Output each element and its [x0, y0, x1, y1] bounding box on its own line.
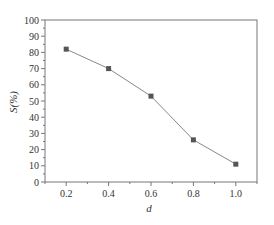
- y-tick-label: 30: [29, 128, 39, 139]
- series-line: [66, 49, 236, 164]
- x-axis-ticks: 0.20.40.60.81.0: [45, 182, 257, 199]
- data-point-marker: [149, 94, 154, 99]
- line-chart: 0102030405060708090100 0.20.40.60.81.0 S…: [0, 0, 274, 225]
- x-tick-label: 1.0: [230, 188, 243, 199]
- y-tick-label: 70: [29, 63, 39, 74]
- data-point-marker: [64, 47, 69, 52]
- x-tick-label: 0.4: [102, 188, 115, 199]
- x-axis-label: d: [146, 202, 152, 214]
- data-point-marker: [106, 66, 111, 71]
- y-axis-label: S(%): [7, 91, 20, 113]
- y-tick-label: 100: [24, 15, 39, 26]
- y-tick-label: 0: [34, 177, 39, 188]
- data-point-marker: [191, 137, 196, 142]
- chart-canvas: 0102030405060708090100 0.20.40.60.81.0 S…: [0, 0, 274, 225]
- y-tick-label: 40: [29, 112, 39, 123]
- y-axis-ticks: 0102030405060708090100: [24, 15, 45, 188]
- y-tick-label: 20: [29, 144, 39, 155]
- y-tick-label: 10: [29, 160, 39, 171]
- y-tick-label: 80: [29, 47, 39, 58]
- data-point-marker: [233, 162, 238, 167]
- x-tick-label: 0.8: [187, 188, 200, 199]
- data-series: [64, 47, 239, 167]
- y-tick-label: 50: [29, 96, 39, 107]
- x-tick-label: 0.2: [60, 188, 73, 199]
- x-tick-label: 0.6: [145, 188, 158, 199]
- y-tick-label: 60: [29, 79, 39, 90]
- y-tick-label: 90: [29, 31, 39, 42]
